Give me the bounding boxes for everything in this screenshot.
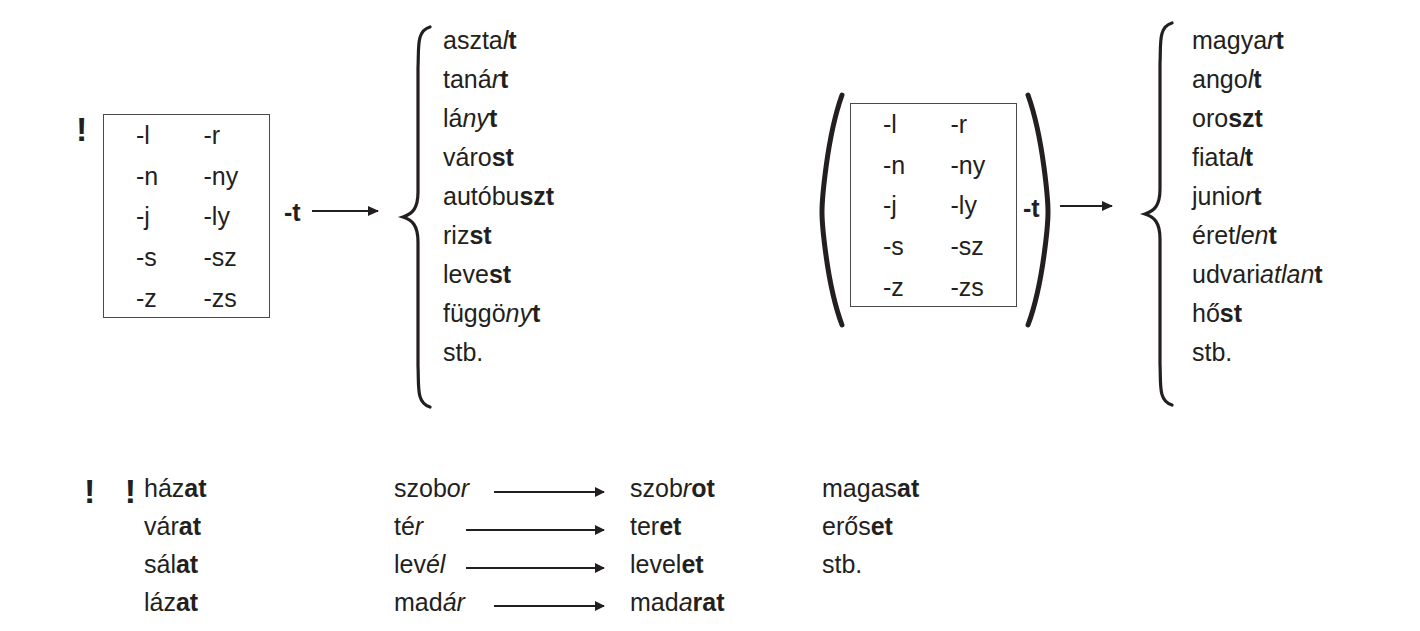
example-word: rizst [443,223,554,262]
word-alternation: ny [506,299,532,327]
rule-three-arrow-icon [494,486,614,498]
example-word: magyart [1192,28,1323,67]
word-stem: sál [144,550,176,578]
word-stem: erős [822,512,871,540]
word-suffix: st [492,143,514,171]
example-word: udvariatlant [1192,262,1323,301]
word-stem: aszta [443,26,503,54]
example-word: hőst [1192,301,1323,340]
word-alternation: r [1245,182,1253,210]
example-word: angolt [1192,67,1323,106]
word-suffix: t [1245,143,1253,171]
example-word: asztalt [443,28,554,67]
word-stem: láz [144,588,176,616]
rule-one-arrow-icon [312,205,388,217]
word-suffix: et [681,550,703,578]
suffix-cell-right: -ny [204,162,270,191]
word-alternation: r [683,474,691,502]
word-stem: lá [443,104,462,132]
word-stem: lev [394,550,426,578]
rule-two-brace-icon [1142,20,1176,408]
suffix-row: -s -sz [104,237,269,278]
example-word: juniort [1192,184,1323,223]
example-word-etc: stb. [822,552,919,590]
word-suffix: szt [519,182,554,210]
suffix-row: -s -sz [851,226,1016,267]
suffix-row: -l -r [104,115,269,156]
example-word: várat [144,514,207,552]
word-suffix: at [897,474,919,502]
word-stem: taná [443,65,492,93]
target-word: madarat [630,590,725,628]
word-suffix: at [176,550,198,578]
rule-three-arrow-icon [466,524,614,536]
example-word: erőset [822,514,919,552]
word-suffix: st [1220,299,1242,327]
target-word: levelet [630,552,725,590]
word-stem: váro [443,143,492,171]
example-word: lázat [144,590,207,628]
rule-three-column-two-target: szobrot teret levelet madarat [630,476,725,628]
word-stem: oro [1192,104,1228,132]
word-suffix: t [500,65,508,93]
example-word: függönyt [443,301,554,340]
suffix-cell-left: -s [104,243,204,272]
word-stem: függö [443,299,506,327]
suffix-cell-right: -ny [951,151,1017,180]
word-stem: autóbu [443,182,519,210]
suffix-cell-right: -sz [951,232,1017,261]
word-suffix: et [871,512,893,540]
word-alternation: ny [462,104,488,132]
rule-one-example-list: asztalt tanárt lányt várost autóbuszt ri… [443,28,554,379]
source-word: levél [394,552,469,590]
word-suffix: t [1253,65,1261,93]
suffix-cell-left: -l [104,121,204,150]
word-stem: vár [144,512,179,540]
rule-two-suffix-box: -l -r -n -ny -j -ly -s -sz -z -zs [850,103,1017,307]
word-stem: ango [1192,65,1248,93]
word-stem: éret [1192,221,1235,249]
suffix-cell-left: -z [851,273,951,302]
rule-three-column-one: házat várat sálat lázat [144,476,207,628]
example-word: várost [443,145,554,184]
source-word: madár [394,590,469,628]
word-stem: riz [443,221,469,249]
suffix-row: -n -ny [104,156,269,197]
word-suffix: at [179,512,201,540]
suffix-cell-right: -ly [951,191,1017,220]
suffix-row: -z -zs [851,267,1016,308]
word-suffix: t [1314,260,1322,288]
suffix-cell-left: -j [104,202,204,231]
word-stem: té [394,512,415,540]
rule-two-open-paren-icon [818,92,848,328]
word-suffix: t [1253,182,1261,210]
word-stem: udvari [1192,260,1260,288]
suffix-row: -n -ny [851,145,1016,186]
rule-one-morpheme: -t [284,200,301,225]
rule-three-column-three: magasat erőset stb. [822,476,919,590]
word-suffix: ot [691,474,715,502]
word-alternation: a [679,588,693,616]
target-word: szobrot [630,476,725,514]
rule-three-arrow-icon [466,562,614,574]
word-stem: ter [630,512,659,540]
rule-two-arrow-icon [1060,200,1122,212]
word-stem: mad [394,588,443,616]
suffix-cell-left: -j [851,191,951,220]
source-word: tér [394,514,469,552]
suffix-row: -j -ly [104,197,269,238]
target-word: teret [630,514,725,552]
word-alternation: él [426,550,445,578]
example-word-etc: stb. [443,340,554,379]
word-suffix: t [508,26,516,54]
example-word: házat [144,476,207,514]
word-stem: fiata [1192,143,1239,171]
rule-one-marker: ! [76,112,97,146]
word-stem: szob [394,474,447,502]
word-suffix: t [1275,26,1283,54]
word-suffix: rat [693,588,725,616]
suffix-cell-left: -s [851,232,951,261]
word-suffix: t [489,104,497,132]
word-suffix: szt [1228,104,1263,132]
example-word: lányt [443,106,554,145]
